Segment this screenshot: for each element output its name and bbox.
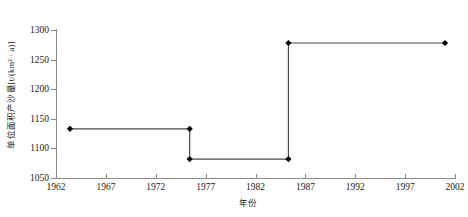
y-axis-tick-label: 1250 [30,55,49,65]
plot-area: 1050110011501200125013001962196719721977… [56,30,455,178]
x-axis-tick-label: 1977 [196,182,215,192]
data-point-marker [67,126,73,132]
data-point-marker [285,40,291,46]
data-series [56,30,455,178]
series-line [70,43,445,159]
x-axis-tick-label: 1987 [296,182,315,192]
x-axis-tick-label: 1967 [96,182,115,192]
data-point-marker [187,156,193,162]
x-axis-tick-label: 1972 [146,182,165,192]
data-point-marker [442,40,448,46]
x-axis-tick-label: 1962 [47,182,66,192]
y-axis-tick-label: 1200 [30,84,49,94]
chart-container: 单位面积产沙量[t/(km² · a)] 1050110011501200125… [0,0,468,217]
data-point-marker [285,156,291,162]
y-axis-tick-label: 1300 [30,25,49,35]
x-axis-end-tick [455,174,456,178]
x-axis-title-text: 年份 [239,198,257,208]
y-axis-tick-label: 1100 [30,143,49,153]
x-axis-tick-label: 1997 [396,182,415,192]
x-axis-tick-label: 1992 [346,182,365,192]
y-axis-title: 单位面积产沙量[t/(km² · a)] [2,0,18,190]
x-axis-title: 年份 [0,196,468,208]
x-axis-tick-label: 2002 [446,182,465,192]
y-axis-tick [51,178,56,179]
x-axis-line [56,178,456,179]
x-axis-tick-label: 1982 [246,182,265,192]
y-axis-title-text: 单位面积产沙量[t/(km² · a)] [4,41,16,148]
y-axis-tick-label: 1150 [30,114,49,124]
data-point-marker [187,126,193,132]
